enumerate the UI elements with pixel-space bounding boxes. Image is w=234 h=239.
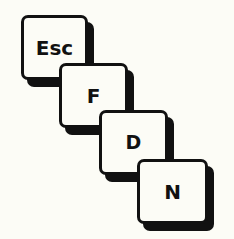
- key-esc-label: Esc: [36, 38, 73, 58]
- key-n-label: N: [164, 182, 181, 202]
- key-f-label: F: [87, 86, 101, 106]
- key-n: N: [137, 159, 208, 224]
- key-d-label: D: [126, 133, 142, 152]
